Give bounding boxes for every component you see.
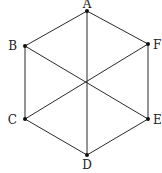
- edge-a-f: [87, 11, 148, 44]
- edge-c-d: [25, 119, 87, 155]
- vertex-d: D: [82, 153, 92, 172]
- vertex-dot: [146, 42, 150, 46]
- vertex-dot: [23, 117, 27, 121]
- vertex-label: C: [8, 113, 17, 127]
- vertex-a: A: [82, 0, 92, 13]
- edge-a-b: [25, 11, 87, 46]
- vertex-b: B: [8, 39, 27, 53]
- vertex-label: F: [153, 38, 161, 52]
- vertex-dot: [146, 117, 150, 121]
- edges-group: [25, 11, 148, 155]
- vertex-c: C: [8, 113, 27, 127]
- vertex-label: D: [82, 158, 92, 172]
- vertex-dot: [23, 44, 27, 48]
- edge-e-d: [87, 119, 148, 155]
- hexagon-graph-diagram: ABFCED: [0, 0, 162, 173]
- vertex-dot: [85, 153, 89, 157]
- vertex-label: A: [82, 0, 92, 11]
- vertex-label: E: [153, 113, 162, 127]
- vertices-group: ABFCED: [8, 0, 162, 172]
- vertex-label: B: [8, 39, 17, 53]
